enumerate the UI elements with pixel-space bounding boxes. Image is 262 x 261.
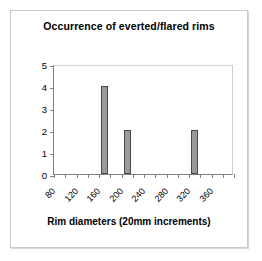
y-axis-tick — [50, 132, 54, 133]
x-axis-tick — [155, 174, 156, 178]
x-axis-tick — [133, 174, 134, 178]
x-axis-tick — [178, 174, 179, 178]
y-axis-tick — [50, 66, 54, 67]
x-axis-tick — [234, 174, 235, 178]
x-axis-tick — [110, 174, 111, 178]
x-axis-tick — [77, 174, 78, 178]
x-axis-tick — [54, 174, 55, 178]
y-axis-tick-label: 1 — [42, 149, 47, 159]
chart-figure: Occurrence of everted/flared rims 012345… — [0, 0, 262, 261]
y-axis-tick-label: 0 — [42, 171, 47, 181]
bar — [191, 130, 198, 174]
x-axis-tick — [99, 174, 100, 178]
y-axis-tick — [50, 88, 54, 89]
y-axis-tick — [50, 154, 54, 155]
x-axis-tick — [65, 174, 66, 178]
x-axis-tick — [88, 174, 89, 178]
plot-area: 01234580120160200240280320360 — [53, 65, 233, 175]
chart-title: Occurrence of everted/flared rims — [10, 20, 248, 32]
plot-inner: 01234580120160200240280320360 — [54, 66, 232, 174]
y-axis-tick-label: 5 — [42, 61, 47, 71]
y-axis-tick-label: 4 — [42, 83, 47, 93]
x-axis-tick — [122, 174, 123, 178]
x-axis-title: Rim diameters (20mm increments) — [10, 216, 248, 227]
y-axis-tick-label: 3 — [42, 105, 47, 115]
bar — [101, 86, 108, 174]
x-axis-tick — [167, 174, 168, 178]
x-axis-tick — [212, 174, 213, 178]
y-axis-tick-label: 2 — [42, 127, 47, 137]
bar — [124, 130, 131, 174]
x-axis-tick — [189, 174, 190, 178]
y-axis-tick — [50, 110, 54, 111]
x-axis-tick — [144, 174, 145, 178]
x-axis-tick — [223, 174, 224, 178]
x-axis-tick — [200, 174, 201, 178]
